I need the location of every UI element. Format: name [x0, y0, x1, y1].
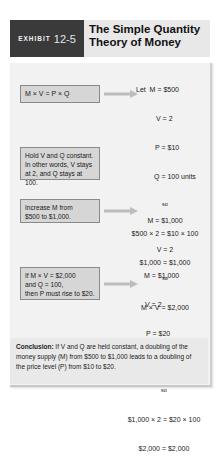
box-line: $500 to $1,000.	[25, 212, 95, 221]
eq-line: so	[118, 386, 210, 396]
exhibit-number: 12-5	[54, 33, 76, 45]
box-line: Increase M from	[25, 203, 95, 212]
eq-line: V = 2	[122, 114, 208, 124]
conclusion-label: Conclusion:	[16, 343, 54, 350]
assumption-box: Hold V and Q constant. In other words, V…	[20, 147, 100, 180]
exhibit-badge: EXHIBIT 12-5	[10, 20, 84, 57]
exhibit-label: EXHIBIT	[18, 35, 51, 42]
eq-line: Let M = $500	[122, 85, 208, 95]
eq-line: $1,000 × 2 = $20 × 100	[118, 415, 210, 425]
exhibit-title: The Simple Quantity Theory of Money	[84, 20, 210, 57]
box-line: then P must rise to $20.	[25, 289, 95, 298]
eq-line: M = $1,000	[118, 271, 210, 281]
increase-m-box: Increase M from $500 to $1,000.	[20, 199, 100, 223]
conclusion-box: Conclusion: If V and Q are held constant…	[10, 338, 208, 384]
eq-line: $2,000 = $2,000	[118, 444, 210, 454]
eq-line: M = $1,000	[122, 216, 208, 226]
exhibit-header: EXHIBIT 12-5 The Simple Quantity Theory …	[10, 20, 210, 57]
eq-line: Q = 100 units	[122, 172, 208, 182]
title-line-2: Theory of Money	[89, 36, 210, 49]
title-line-1: The Simple Quantity	[89, 23, 210, 36]
equation-box: M × V = P × Q	[20, 85, 100, 103]
box-line: at 2, and Q stays at 100.	[25, 169, 95, 187]
eq-line: P = $10	[122, 143, 208, 153]
box-line: Hold V and Q constant.	[25, 151, 95, 160]
eq-line: P = $20	[118, 329, 210, 339]
box-line: M × V = P × Q	[25, 89, 95, 99]
box-line: In other words, V stays	[25, 160, 95, 169]
box-line: and Q = 100,	[25, 280, 95, 289]
box-line: If M × V = $2,000	[25, 271, 95, 280]
eq-line: V = 2	[118, 300, 210, 310]
price-rise-box: If M × V = $2,000 and Q = 100, then P mu…	[20, 267, 100, 300]
